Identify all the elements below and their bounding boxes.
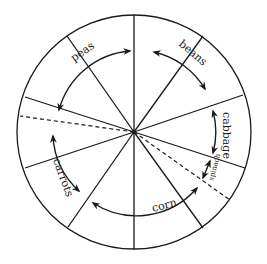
cabbage-arrow [213, 111, 216, 153]
label-corn: corn [150, 196, 178, 215]
label-cabbage: cabbage [220, 112, 233, 159]
label-carrots: carrots [50, 157, 76, 199]
peas-arrow [59, 51, 130, 110]
center-hub [132, 130, 136, 134]
corn-arrow [93, 188, 197, 216]
diagram-canvas: peas beans cabbage spinach corn carrots [0, 0, 267, 264]
crop-rotation-diagram: peas beans cabbage spinach corn carrots [0, 0, 267, 264]
label-peas: peas [68, 39, 97, 65]
